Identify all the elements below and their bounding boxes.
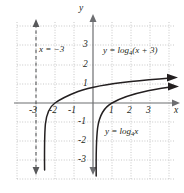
x-tick--1: -1 bbox=[68, 105, 76, 115]
curve2-label-arg: x bbox=[134, 126, 138, 136]
x-tick-1: 1 bbox=[109, 105, 114, 115]
y-axis-label: y bbox=[79, 3, 83, 13]
curve1-label-arg: (x + 3) bbox=[132, 45, 157, 55]
asymptote-label: x = −3 bbox=[39, 44, 64, 54]
graph-canvas bbox=[0, 0, 184, 193]
curve-label-log4-x: y = log4x bbox=[105, 126, 138, 137]
y-tick--3: -3 bbox=[78, 154, 86, 164]
y-tick-2: 2 bbox=[83, 59, 88, 69]
curve1-arrowhead bbox=[167, 74, 178, 82]
asymptote-arrow-down bbox=[33, 167, 40, 175]
x-tick-2: 2 bbox=[127, 105, 132, 115]
y-axis-arrow-up bbox=[90, 14, 97, 22]
y-tick--2: -2 bbox=[78, 135, 86, 145]
x-tick--3: -3 bbox=[29, 105, 37, 115]
y-tick-1: 1 bbox=[83, 78, 88, 88]
x-tick--2: -2 bbox=[49, 105, 57, 115]
axis-lines bbox=[14, 18, 172, 173]
x-axis-label: x bbox=[174, 105, 178, 115]
x-tick-3: 3 bbox=[146, 105, 151, 115]
log-function-graph-figure: y x -3 -2 -1 1 2 3 3 2 1 -1 -2 -3 x = −3… bbox=[0, 0, 184, 193]
asymptote-arrow-up bbox=[33, 19, 40, 27]
curve1-label-prefix: y = log bbox=[103, 45, 129, 55]
asymptote-x-equals-minus-3 bbox=[33, 19, 40, 175]
curve-label-log4-x-plus-3: y = log4(x + 3) bbox=[103, 45, 157, 56]
curve2-label-prefix: y = log bbox=[105, 126, 131, 136]
y-tick--1: -1 bbox=[78, 116, 86, 126]
y-tick-3: 3 bbox=[83, 39, 88, 49]
